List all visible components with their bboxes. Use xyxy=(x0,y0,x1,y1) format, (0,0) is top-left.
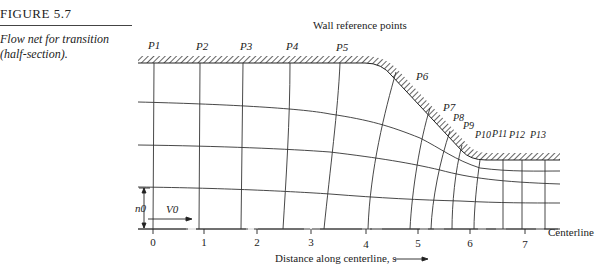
wall-point-p5: P5 xyxy=(335,41,349,53)
wall-point-p3: P3 xyxy=(239,40,253,52)
wall-point-p2: P2 xyxy=(195,40,209,52)
axis-arrow xyxy=(395,257,428,261)
flow-net-diagram: Wall reference points P1 P2 P3 P4 P5 P6 … xyxy=(0,0,612,277)
wall-reference-label: Wall reference points xyxy=(313,19,407,31)
tick-0: 0 xyxy=(150,236,156,248)
axis-label: Distance along centerline, s xyxy=(275,252,397,264)
tick-1: 1 xyxy=(201,236,207,248)
wall-point-p6: P6 xyxy=(415,70,429,82)
wall-point-p13: P13 xyxy=(529,129,546,140)
tick-7: 7 xyxy=(522,238,528,250)
wall-point-p9: P9 xyxy=(462,120,474,131)
tick-3: 3 xyxy=(308,236,314,248)
tick-4: 4 xyxy=(363,238,369,250)
wall-boundary xyxy=(138,56,560,160)
tick-2: 2 xyxy=(254,236,260,248)
tick-5: 5 xyxy=(415,237,421,249)
v0-label: V0 xyxy=(166,203,179,215)
centerline-label: Centerline xyxy=(548,226,594,238)
v0-arrow xyxy=(148,217,192,221)
n0-label: n0 xyxy=(135,202,147,214)
wall-point-p12: P12 xyxy=(508,129,525,140)
tick-6: 6 xyxy=(467,237,473,249)
wall-point-p4: P4 xyxy=(285,40,299,52)
wall-point-p10: P10 xyxy=(474,129,491,140)
axis-ticks: 0 1 2 3 4 5 6 7 xyxy=(150,236,528,250)
wall-point-p11: P11 xyxy=(491,128,507,139)
wall-point-p1: P1 xyxy=(147,39,160,51)
streamlines xyxy=(138,102,560,229)
